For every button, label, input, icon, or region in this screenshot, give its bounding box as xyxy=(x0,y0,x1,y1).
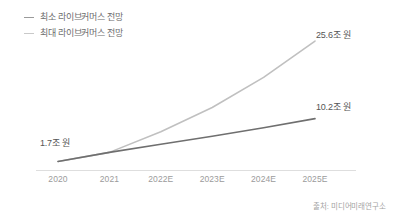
x-axis-line xyxy=(36,170,356,171)
x-axis-tick-2020: 2020 xyxy=(48,174,67,184)
x-axis-tick-labels: 202020212022E2023E2024E2025E xyxy=(36,174,356,188)
point-label-min-end: 10.2조 원 xyxy=(316,100,351,113)
x-axis-tick-2024e: 2024E xyxy=(251,174,276,184)
line-dash-icon xyxy=(24,33,34,34)
live-commerce-forecast-chart: 최소 라이브커머스 전망 최대 라이브커머스 전망 202020212022E2… xyxy=(0,0,394,216)
legend-item-min: 최소 라이브커머스 전망 xyxy=(24,11,123,23)
x-axis-tick-2021: 2021 xyxy=(100,174,119,184)
series-line-max xyxy=(58,41,315,161)
legend-item-max-label: 최대 라이브커머스 전망 xyxy=(40,28,123,39)
legend-item-max: 최대 라이브커머스 전망 xyxy=(24,27,123,39)
legend-item-min-label: 최소 라이브커머스 전망 xyxy=(40,12,123,23)
chart-legend: 최소 라이브커머스 전망 최대 라이브커머스 전망 xyxy=(24,11,123,39)
x-axis-tick-2022e: 2022E xyxy=(148,174,173,184)
line-dash-icon xyxy=(24,17,34,18)
x-axis-tick-2025e: 2025E xyxy=(302,174,327,184)
source-note: 출처: 미디어미래연구소 xyxy=(313,200,386,211)
point-label-start: 1.7조 원 xyxy=(40,136,70,149)
x-axis-tick-2023e: 2023E xyxy=(200,174,225,184)
series-line-min xyxy=(58,119,315,162)
point-label-max-end: 25.6조 원 xyxy=(316,28,351,41)
